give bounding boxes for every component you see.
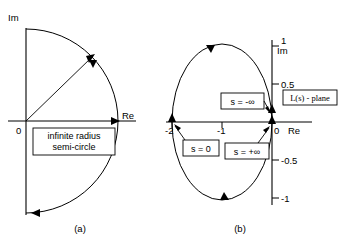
panel-a-caption: (a)	[74, 223, 86, 234]
panel-b-xtick-label-0: 0	[274, 125, 279, 136]
figure-container: Im Re 0 infinite radius semi-circle (a)	[0, 0, 342, 245]
panel-b-arrow-top	[206, 45, 215, 53]
panel-a-origin-label: 0	[16, 125, 21, 136]
panel-b-arrow-origin-lower	[268, 115, 276, 124]
panel-b-re-label: Re	[288, 125, 300, 136]
panel-b-plane-label: L(s) - plane	[290, 93, 330, 103]
panel-a-im-label: Im	[8, 12, 19, 23]
panel-a-note-line2: semi-circle	[52, 142, 95, 152]
panel-b-s-plus-inf-leader-arrowhead	[263, 126, 270, 133]
panel-b: Im Re 1 0.5 -0.5 -1 -2 -1 0 s = -∞ s = 0…	[165, 35, 337, 234]
panel-b-im-label: Im	[277, 45, 288, 56]
panel-b-s-plus-inf-label: s = +∞	[234, 147, 260, 157]
panel-a-note-line1: infinite radius	[47, 131, 101, 141]
panel-a-arc-arrow-upper	[89, 60, 97, 68]
panel-b-arrow-left-vertex	[168, 113, 176, 122]
panel-b-ytick-label-1: 1	[281, 35, 286, 46]
panel-b-caption: (b)	[234, 223, 246, 234]
panel-b-ytick-label-05: 0.5	[281, 79, 294, 90]
panel-a-real-axis-arrowhead	[111, 117, 120, 125]
panel-a: Im Re 0 infinite radius semi-circle (a)	[8, 12, 136, 234]
panel-b-s-zero-leader-arrowhead	[174, 124, 181, 131]
panel-a-arc-arrow-lower	[31, 209, 40, 217]
nyquist-figure: Im Re 0 infinite radius semi-circle (a)	[0, 0, 342, 245]
panel-b-s-minus-inf-label: s = -∞	[230, 97, 254, 107]
panel-b-xtick-label-m2: -2	[165, 125, 173, 136]
panel-b-s-zero-label: s = 0	[191, 144, 211, 154]
panel-b-xtick-label-m1: -1	[217, 125, 225, 136]
panel-b-arrow-bottom	[220, 192, 229, 200]
panel-b-ytick-label-m1: -1	[281, 193, 289, 204]
panel-b-ytick-label-m05: -0.5	[281, 155, 297, 166]
panel-a-radius-line	[26, 57, 92, 121]
panel-a-re-label: Re	[122, 110, 134, 121]
